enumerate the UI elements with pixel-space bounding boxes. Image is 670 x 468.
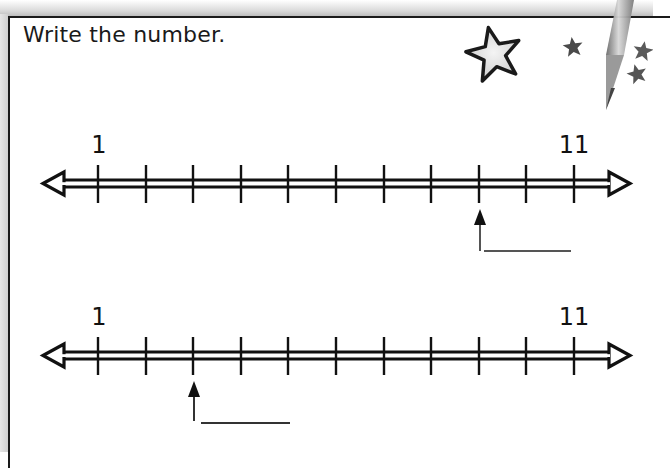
answer-blank-1[interactable] xyxy=(484,228,571,252)
number-line-1-end-label: 11 xyxy=(559,133,590,157)
number-line-1-start-label: 1 xyxy=(91,133,106,157)
small-star-icon xyxy=(625,62,649,86)
pencil-icon xyxy=(606,0,634,110)
large-outline-star-icon xyxy=(462,22,525,83)
number-line-2-end-label: 11 xyxy=(559,305,590,329)
pointer-arrow-2 xyxy=(188,381,200,421)
number-line-2 xyxy=(43,337,630,375)
small-star-icon xyxy=(632,39,653,61)
answer-blank-2[interactable] xyxy=(201,400,290,424)
small-star-icon xyxy=(562,36,584,58)
number-line-1 xyxy=(43,165,630,203)
number-line-2-start-label: 1 xyxy=(91,305,106,329)
